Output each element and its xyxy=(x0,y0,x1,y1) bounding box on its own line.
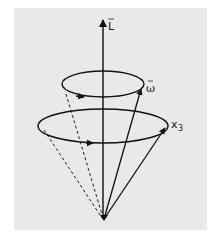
body-axis-x3-vector xyxy=(104,128,165,219)
dashed-line-omega-prior xyxy=(66,94,103,218)
label-body-axis: x xyxy=(171,118,178,131)
label-body-axis-subscript: 3 xyxy=(178,124,183,133)
label-angular-velocity: ω xyxy=(146,82,155,95)
small-ellipse-direction-arrow-icon xyxy=(76,96,84,97)
label-angular-momentum: L xyxy=(108,20,115,33)
precession-cone-diagram: L ω x 3 xyxy=(0,0,215,237)
apex-point xyxy=(100,215,108,221)
